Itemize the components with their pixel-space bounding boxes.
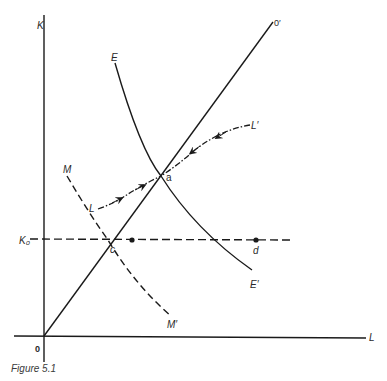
point-d-label: d <box>253 245 259 256</box>
curve-L-lower <box>98 176 161 209</box>
point-dot-d <box>253 237 258 242</box>
figure-caption: Figure 5.1 <box>11 363 56 374</box>
curve-M-label: M <box>63 164 72 175</box>
x-axis-label: L <box>369 332 375 343</box>
curve-Eprime-label: E′ <box>250 279 260 290</box>
ray-0-0prime <box>44 22 273 336</box>
K0-label: K₀ <box>19 235 30 246</box>
curve-E <box>115 63 252 270</box>
arrow-icon <box>112 199 120 203</box>
point-a-label: a <box>166 172 172 183</box>
curve-L-label: L <box>89 203 95 214</box>
arrow-icon <box>135 186 143 190</box>
curve-Lprime-upper <box>161 125 250 176</box>
x-axis <box>14 336 366 338</box>
point-dot <box>129 237 134 242</box>
ray-end-label: 0′ <box>274 18 281 28</box>
curve-Lprime-label: L′ <box>251 120 260 131</box>
origin-label: 0 <box>35 344 40 354</box>
diagram-figure: K L 0 0′ E E′ M M′ L L′ K₀ a c d <box>0 0 387 381</box>
curve-Mprime-label: M′ <box>167 319 178 330</box>
point-c-label: c <box>110 244 115 255</box>
curve-M <box>67 176 171 316</box>
arrow-icon <box>192 146 200 152</box>
curve-E-label: E <box>111 52 118 63</box>
line-K0 <box>30 239 291 240</box>
